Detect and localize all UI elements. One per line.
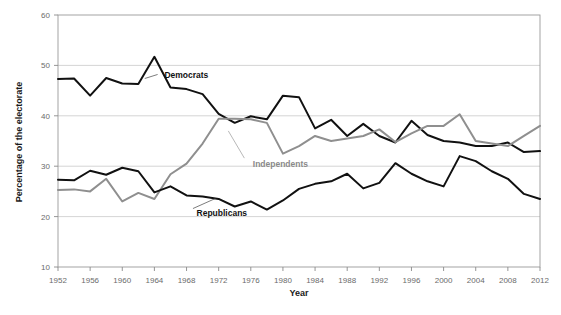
x-tick-labels-group: 1952195619601964196819721976198019841988… bbox=[49, 276, 549, 285]
series-annotation-democrats: Democrats bbox=[164, 70, 208, 80]
x-tick-label-1992: 1992 bbox=[370, 276, 388, 285]
x-tick-label-2004: 2004 bbox=[467, 276, 485, 285]
y-tick-label-60: 60 bbox=[41, 11, 50, 20]
series-lines-group bbox=[58, 57, 540, 210]
y-tick-label-50: 50 bbox=[41, 61, 50, 70]
chart-container: 102030405060 195219561960196419681972197… bbox=[0, 0, 561, 315]
gridlines-group bbox=[58, 65, 540, 216]
x-tick-label-1980: 1980 bbox=[274, 276, 292, 285]
x-tick-label-1952: 1952 bbox=[49, 276, 67, 285]
x-tick-label-1988: 1988 bbox=[338, 276, 356, 285]
y-tick-label-40: 40 bbox=[41, 112, 50, 121]
x-tick-label-1960: 1960 bbox=[113, 276, 131, 285]
x-tick-label-1984: 1984 bbox=[306, 276, 324, 285]
x-axis-title: Year bbox=[289, 288, 309, 298]
y-tick-label-20: 20 bbox=[41, 213, 50, 222]
x-tick-label-1964: 1964 bbox=[146, 276, 164, 285]
leader-line-independents bbox=[228, 131, 244, 158]
series-line-democrats bbox=[58, 57, 540, 152]
y-axis-title: Percentage of the electorate bbox=[14, 82, 24, 203]
y-tick-label-30: 30 bbox=[41, 162, 50, 171]
x-tick-label-2000: 2000 bbox=[435, 276, 453, 285]
x-tickmarks-group bbox=[54, 15, 540, 271]
x-tick-label-1956: 1956 bbox=[81, 276, 99, 285]
x-tick-label-1976: 1976 bbox=[242, 276, 260, 285]
x-tick-label-1972: 1972 bbox=[210, 276, 228, 285]
x-tick-label-1968: 1968 bbox=[178, 276, 196, 285]
leader-line-democrats bbox=[145, 74, 158, 78]
y-tick-label-10: 10 bbox=[41, 263, 50, 272]
y-tick-labels-group: 102030405060 bbox=[41, 11, 50, 272]
plot-frame bbox=[58, 15, 540, 267]
series-annotations-group: DemocratsIndependentsRepublicans bbox=[145, 70, 309, 217]
line-chart: 102030405060 195219561960196419681972197… bbox=[0, 0, 561, 315]
series-annotation-independents: Independents bbox=[253, 159, 309, 169]
x-tick-label-1996: 1996 bbox=[403, 276, 421, 285]
plot-area-frame bbox=[58, 15, 540, 267]
series-annotation-republicans: Republicans bbox=[197, 208, 248, 218]
x-tick-label-2012: 2012 bbox=[531, 276, 549, 285]
x-tick-label-2008: 2008 bbox=[499, 276, 517, 285]
